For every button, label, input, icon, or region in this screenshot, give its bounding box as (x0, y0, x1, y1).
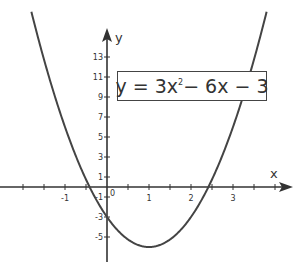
y-tick-label: 13 (93, 53, 103, 62)
y-tick-label: 7 (98, 113, 103, 122)
equation-box: y = 3x2 − 6x − 3 (117, 71, 267, 101)
equation-exponent: 2 (178, 78, 183, 87)
x-tick-label: 2 (188, 194, 193, 203)
y-tick-label: -5 (95, 233, 103, 242)
y-axis-label: y (115, 30, 123, 45)
y-tick-label: 3 (98, 153, 103, 162)
equation-lhs: y = 3x (115, 75, 178, 97)
x-tick-label: 1 (146, 194, 151, 203)
y-tick-label: 5 (98, 133, 103, 142)
plot-area: x y 0 -1123-5-3-1135791113 (0, 0, 296, 269)
origin-label: 0 (110, 189, 115, 198)
y-tick-label: -3 (95, 213, 103, 222)
y-tick-label: 9 (98, 93, 103, 102)
y-tick-label: 1 (98, 173, 103, 182)
y-tick-label: 11 (93, 73, 103, 82)
axes: x y 0 (0, 28, 293, 262)
parabola-curve (31, 12, 266, 247)
x-tick-label: 3 (230, 194, 235, 203)
x-axis-label: x (270, 166, 278, 181)
equation-rhs: − 6x − 3 (183, 75, 268, 97)
x-tick-label: -1 (61, 194, 69, 203)
